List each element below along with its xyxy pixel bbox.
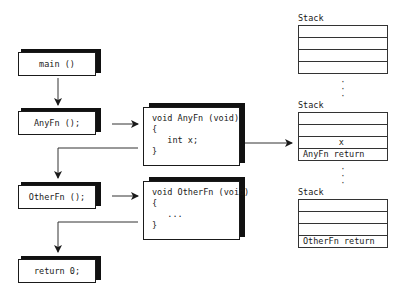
stack-otherfn: OtherFn return	[298, 199, 388, 248]
stack-initial	[298, 25, 388, 74]
stack-row	[299, 125, 387, 137]
stack-row	[299, 38, 387, 50]
otherfn-definition-box: void OtherFn (void){ ...}	[143, 181, 240, 240]
stack-anyfn: x AnyFn return	[298, 112, 388, 161]
code-line: }	[152, 146, 239, 157]
code-line: }	[152, 220, 239, 231]
stack-row	[299, 113, 387, 125]
stack-label: Stack	[298, 13, 324, 23]
stack-row	[299, 50, 387, 62]
stack-row: OtherFn return	[299, 236, 387, 247]
return-box: return 0;	[18, 259, 96, 283]
stack-row	[299, 212, 387, 224]
ellipsis-dots: ···	[340, 79, 346, 100]
stack-row: x	[299, 137, 387, 149]
main-call-box: main ()	[18, 52, 96, 76]
code-line: int x;	[152, 135, 239, 146]
stack-row	[299, 200, 387, 212]
code-line: {	[152, 124, 239, 135]
return-label: return 0;	[34, 266, 80, 276]
otherfn-call-label: OtherFn ();	[29, 192, 85, 202]
main-call-label: main ()	[39, 59, 75, 69]
stack-row: AnyFn return	[299, 149, 387, 160]
code-line: ...	[152, 209, 239, 220]
stack-row	[299, 26, 387, 38]
anyfn-definition-box: void AnyFn (void){ int x;}	[143, 107, 240, 166]
ellipsis-dots: ···	[340, 166, 346, 187]
code-line: void AnyFn (void)	[152, 113, 239, 124]
code-line: void OtherFn (void)	[152, 187, 239, 198]
stack-label: Stack	[298, 100, 324, 110]
anyfn-call-label: AnyFn ();	[34, 118, 80, 128]
stack-row	[299, 62, 387, 73]
anyfn-call-box: AnyFn ();	[18, 111, 96, 135]
code-line: {	[152, 198, 239, 209]
stack-label: Stack	[298, 187, 324, 197]
otherfn-call-box: OtherFn ();	[18, 185, 96, 209]
stack-row	[299, 224, 387, 236]
